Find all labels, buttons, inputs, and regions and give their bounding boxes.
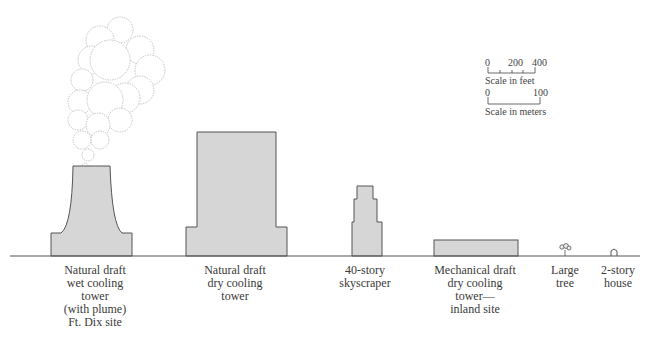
mechanical-draft-tower-shape [434, 240, 518, 256]
natural-draft-dry-tower-shape [186, 132, 287, 256]
scale-feet-tick-400: 400 [532, 57, 547, 68]
label-large-tree: Large tree [540, 264, 590, 290]
scale-meters-tick-100: 100 [533, 87, 548, 98]
scale-feet-tick-200: 200 [508, 57, 523, 68]
tree-icon [560, 244, 571, 256]
skyscraper-shape [352, 186, 382, 256]
scale-meters-tick-0: 0 [485, 87, 490, 98]
scale-meters-caption: Scale in meters [485, 106, 546, 117]
label-natural-draft-wet: Natural draft wet cooling tower (with pl… [40, 264, 150, 329]
natural-draft-wet-tower-shape [51, 166, 132, 256]
label-mechanical-draft-dry: Mechanical draft dry cooling tower— inla… [420, 264, 530, 316]
scale-feet-tick-0: 0 [485, 57, 490, 68]
label-natural-draft-dry: Natural draft dry cooling tower [180, 264, 290, 303]
label-skyscraper: 40-story skyscraper [320, 264, 410, 290]
scale-meters [488, 97, 540, 104]
house-icon [611, 249, 617, 256]
plume [68, 17, 165, 169]
label-house: 2-story house [590, 264, 646, 290]
scale-feet-caption: Scale in feet [485, 75, 535, 86]
